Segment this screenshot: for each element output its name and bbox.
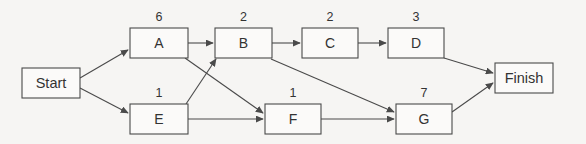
node-b: B2 bbox=[215, 10, 272, 58]
edge-start-e bbox=[80, 88, 128, 113]
node-label-g: G bbox=[419, 111, 430, 127]
node-c: C2 bbox=[302, 10, 358, 58]
node-layer: StartA6B2C2D3E1F1G7Finish bbox=[22, 10, 553, 134]
edge-g-finish bbox=[452, 83, 493, 112]
duration-label-d: 3 bbox=[413, 10, 420, 24]
node-finish: Finish bbox=[495, 63, 553, 93]
node-start: Start bbox=[22, 68, 80, 98]
node-f: F1 bbox=[265, 86, 321, 134]
activity-network-diagram: StartA6B2C2D3E1F1G7Finish bbox=[0, 0, 586, 144]
node-label-finish: Finish bbox=[505, 70, 544, 86]
duration-label-c: 2 bbox=[327, 10, 334, 24]
duration-label-g: 7 bbox=[421, 86, 428, 100]
node-label-d: D bbox=[411, 35, 421, 51]
edge-e-b bbox=[186, 59, 216, 104]
diagram-canvas: StartA6B2C2D3E1F1G7Finish bbox=[0, 0, 586, 144]
node-g: G7 bbox=[396, 86, 452, 134]
duration-label-e: 1 bbox=[156, 86, 163, 100]
node-a: A6 bbox=[130, 10, 188, 58]
duration-label-a: 6 bbox=[156, 10, 163, 24]
edge-start-a bbox=[80, 50, 128, 78]
node-e: E1 bbox=[130, 86, 188, 134]
node-label-a: A bbox=[154, 35, 164, 51]
node-label-start: Start bbox=[36, 75, 67, 91]
edge-a-f bbox=[185, 58, 263, 113]
node-label-e: E bbox=[154, 111, 163, 127]
node-d: D3 bbox=[388, 10, 444, 58]
node-label-f: F bbox=[289, 111, 298, 127]
duration-label-f: 1 bbox=[290, 86, 297, 100]
duration-label-b: 2 bbox=[240, 10, 247, 24]
node-label-c: C bbox=[325, 35, 335, 51]
edge-d-finish bbox=[444, 58, 493, 73]
node-label-b: B bbox=[239, 35, 248, 51]
